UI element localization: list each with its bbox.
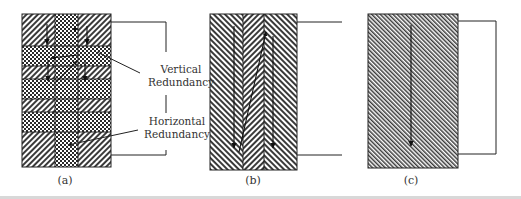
panel-b [210,14,342,170]
label-line: Horizontal [136,115,218,128]
caption-b: (b) [245,174,261,187]
bottom-divider [0,196,521,199]
label-line: Redundancy [136,128,218,141]
panel-c [368,14,496,168]
caption-c: (c) [404,174,419,187]
label-line: Vertical [140,63,222,76]
caption-a: (a) [57,174,72,187]
panel-a [22,14,166,167]
vertical-redundancy-label: Vertical Redundancy [140,63,222,89]
redundancy-diagram [0,0,521,199]
label-line: Redundancy [140,76,222,89]
horizontal-redundancy-label: Horizontal Redundancy [136,115,218,141]
